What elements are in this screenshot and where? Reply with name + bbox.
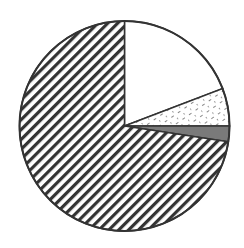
pie-slices (19, 21, 229, 231)
pie-chart (0, 0, 244, 248)
